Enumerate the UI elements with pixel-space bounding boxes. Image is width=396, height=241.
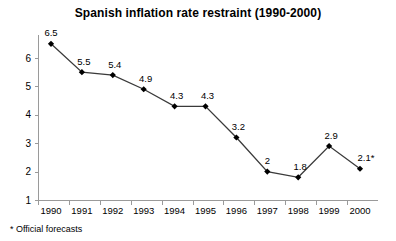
line-chart-plot: 6.55.55.44.94.34.33.221.82.92.1* 1990199… xyxy=(0,0,396,241)
data-point-label: 4.9 xyxy=(139,73,152,84)
data-point-label: 2.9 xyxy=(324,130,337,141)
data-point-label: 1.8 xyxy=(294,161,307,172)
data-point-label: 2.1* xyxy=(358,152,375,163)
x-axis xyxy=(39,201,379,205)
x-tick-label: 1997 xyxy=(257,205,278,216)
data-point-label: 2 xyxy=(265,155,270,166)
y-tick-label: 6 xyxy=(25,53,31,64)
x-tick-label: 1995 xyxy=(195,205,216,216)
data-point-label: 6.5 xyxy=(44,27,57,38)
data-point-marker xyxy=(110,72,116,78)
x-tick-label: 1993 xyxy=(133,205,154,216)
data-point-label: 3.2 xyxy=(232,121,245,132)
y-tick-labels: 123456 xyxy=(25,53,31,206)
data-point-label: 5.5 xyxy=(77,56,90,67)
x-tick-label: 1998 xyxy=(288,205,309,216)
x-tick-label: 1994 xyxy=(164,205,185,216)
y-tick-label: 1 xyxy=(25,195,31,206)
y-tick-label: 4 xyxy=(25,109,31,120)
data-point-label: 5.4 xyxy=(108,59,121,70)
data-point-marker xyxy=(141,86,147,92)
x-tick-label: 1992 xyxy=(102,205,123,216)
chart-footnote: * Official forecasts xyxy=(10,224,82,234)
data-point-label: 4.3 xyxy=(170,90,183,101)
x-tick-label: 2000 xyxy=(349,205,370,216)
x-tick-label: 1991 xyxy=(71,205,92,216)
data-point-label: 4.3 xyxy=(201,90,214,101)
x-tick-label: 1990 xyxy=(40,205,61,216)
y-tick-label: 3 xyxy=(25,138,31,149)
y-tick-label: 2 xyxy=(25,166,31,177)
y-tick-label: 5 xyxy=(25,81,31,92)
x-tick-label: 1996 xyxy=(226,205,247,216)
data-point-marker xyxy=(172,103,178,109)
x-tick-label: 1999 xyxy=(319,205,340,216)
chart-container: Spanish inflation rate restraint (1990-2… xyxy=(0,0,396,241)
y-axis xyxy=(35,35,39,200)
data-series-inflation xyxy=(51,44,360,177)
x-tick-labels: 1990199119921993199419951996199719981999… xyxy=(40,205,370,216)
